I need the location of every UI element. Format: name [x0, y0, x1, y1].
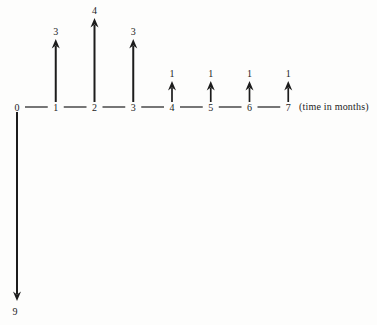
tick-label-3: 3 [131, 102, 136, 113]
cash-flow-figure: 0123456793431111 (time in months) [0, 0, 377, 325]
tick-label-0: 0 [15, 102, 20, 113]
flow-amount-label-t6: 1 [247, 68, 252, 79]
cash-flow-diagram-canvas: 0123456793431111 [0, 0, 377, 325]
time-axis-unit-label: (time in months) [299, 101, 369, 112]
tick-label-4: 4 [170, 102, 175, 113]
flow-amount-label-t1: 3 [53, 26, 58, 37]
tick-label-1: 1 [53, 102, 58, 113]
tick-label-5: 5 [208, 102, 213, 113]
tick-label-6: 6 [247, 102, 252, 113]
flow-amount-label-t2: 4 [92, 5, 97, 16]
flow-amount-label-t4: 1 [170, 68, 175, 79]
flow-amount-label-t0: 9 [13, 306, 18, 317]
flow-amount-label-t7: 1 [286, 68, 291, 79]
flow-amount-label-t3: 3 [131, 26, 136, 37]
flow-amount-label-t5: 1 [208, 68, 213, 79]
tick-label-2: 2 [92, 102, 97, 113]
tick-label-7: 7 [286, 102, 291, 113]
